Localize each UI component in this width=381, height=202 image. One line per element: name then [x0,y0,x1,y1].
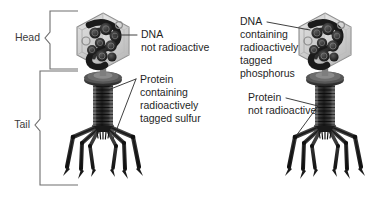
left-dna-label-line1: DNA [141,28,163,40]
head-brace [45,11,78,69]
left-protein-label-line4: tagged sulfur [140,112,201,124]
left-protein-label-line1: Protein [140,73,173,85]
right-dna-label-line3: radioactively [240,41,299,53]
right-protein-label-line1: Protein [248,91,281,103]
head-brace-label: Head [15,31,40,43]
tail-brace [35,71,78,185]
right-phage-diagram [285,13,365,179]
right-dna-label-line5: phosphorus [240,67,295,79]
right-dna-label-line4: tagged [240,54,272,66]
right-protein-label-line2: not radioactive [248,104,316,116]
figure-canvas: Head Tail DNA not radioactive Protein co… [0,0,381,202]
left-dna-label-line2: not radioactive [141,41,209,53]
left-protein-label-line2: containing [140,86,188,98]
right-dna-label-line1: DNA [240,15,262,27]
left-protein-label-line3: radioactively [140,99,199,111]
tail-brace-label: Tail [14,118,30,130]
left-phage-diagram [63,13,143,179]
right-dna-label-line2: containing [240,28,288,40]
